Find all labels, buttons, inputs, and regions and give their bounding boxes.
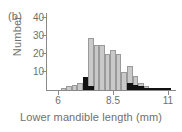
x-axis-title: Lower mandible length (mm) (0, 111, 182, 123)
y-tick-label-30: 30 (24, 31, 44, 41)
plot-area (47, 14, 175, 90)
bar-group (47, 14, 175, 90)
histogram-figure: (b) Number 40 30 20 10 6 8.5 11 Lower ma… (0, 0, 182, 132)
y-tick-label-40: 40 (24, 13, 44, 23)
x-tick-label-8-5: 8.5 (101, 95, 125, 106)
y-tick-label-10: 10 (24, 67, 44, 77)
histogram-bar (88, 86, 94, 90)
y-tick-label-20: 20 (24, 49, 44, 59)
histogram-bar (166, 88, 172, 90)
x-tick-label-11: 11 (156, 95, 180, 106)
x-tick-label-6: 6 (46, 95, 70, 106)
x-axis-line (46, 90, 176, 91)
y-axis-title: Number (11, 6, 23, 66)
